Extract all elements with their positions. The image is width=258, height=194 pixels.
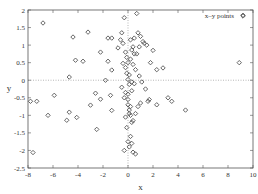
y-tick-label: -1 [19,112,25,120]
x-tick-label: 0 [126,171,130,179]
data-point [67,75,71,79]
data-point [122,16,126,20]
x-tick-label: 8 [226,171,230,179]
y-axis-label: y [7,83,12,93]
x-tick-label: 4 [176,171,180,179]
data-point [52,93,56,97]
data-point [155,67,159,71]
data-points [28,11,245,156]
data-point [123,65,127,69]
y-tick-label: 0 [22,77,26,85]
data-point [73,58,77,62]
data-point [183,108,187,112]
data-point [110,108,114,112]
legend-label: x–y points [205,12,235,20]
data-point [121,61,125,65]
data-point [130,89,134,93]
data-point [161,66,165,70]
y-tick-label: -0.5 [14,94,26,102]
data-point [118,38,122,42]
data-point [137,74,141,78]
y-tick-label: -2 [19,147,25,155]
data-point [143,87,147,91]
data-point [170,99,174,103]
data-point [148,60,152,64]
data-point [166,96,170,100]
y-tick-label: -2.5 [14,165,26,173]
scatter-chart: -8-6-4-20246810 -2.5-2-1.5-1-0.500.511.5… [0,0,258,194]
x-tick-label: 10 [250,171,258,179]
y-tick-label: 1 [22,42,26,50]
x-tick-label: 6 [201,171,205,179]
data-point [46,113,50,117]
legend: x–y points [205,12,246,20]
data-point [75,115,79,119]
data-point [108,93,112,97]
data-point [93,91,97,95]
y-tick-label: 0.5 [16,59,25,67]
x-tick-label: -8 [25,171,31,179]
data-point [116,46,120,50]
x-tick-label: -6 [50,171,56,179]
data-point [155,103,159,107]
data-point [81,59,85,63]
data-point [151,48,155,52]
data-point [110,68,114,72]
x-tick-label: -2 [100,171,106,179]
data-point [133,67,137,71]
data-point [106,59,110,63]
data-point [98,50,102,54]
data-point [95,127,99,131]
x-ticks: -8-6-4-20246810 [25,10,257,179]
data-point [138,101,142,105]
data-point [133,111,137,115]
data-point [31,150,35,154]
data-point [67,110,71,114]
data-point [138,34,142,38]
data-point [98,97,102,101]
data-point [131,62,135,66]
y-tick-label: 1.5 [16,24,25,32]
data-point [237,60,241,64]
data-point [120,85,124,89]
data-point [120,31,124,35]
y-tick-label: -1.5 [14,129,26,137]
data-point [123,115,127,119]
y-ticks: -2.5-2-1.5-1-0.500.511.52 [14,7,253,173]
data-point [122,148,126,152]
data-point [65,118,69,122]
data-point [136,31,140,35]
data-point [71,35,75,39]
x-tick-label: -4 [75,171,81,179]
data-point [135,11,139,15]
data-point [128,134,132,138]
data-point [86,30,90,34]
data-point [35,99,39,103]
data-point [136,104,140,108]
data-point [123,50,127,54]
data-point [121,41,125,45]
x-tick-label: 2 [151,171,155,179]
data-point [88,103,92,107]
x-axis-label: x [138,182,143,192]
data-point [41,21,45,25]
y-tick-label: 2 [22,7,26,15]
data-point [28,99,32,103]
data-point [137,45,141,49]
